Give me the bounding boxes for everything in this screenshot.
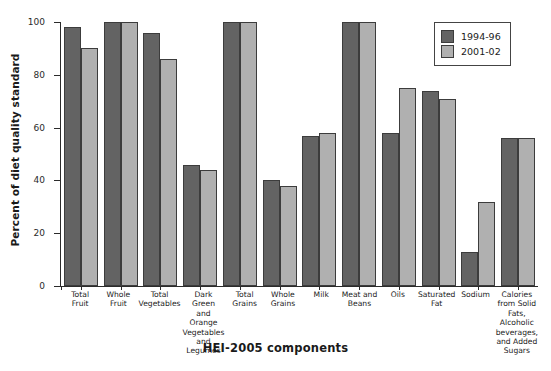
category-label-line: Vegetables [183, 328, 225, 337]
category-label-line: Calories [496, 290, 538, 299]
y-axis-tick: 100 [54, 22, 60, 23]
bar-1994-96 [422, 91, 439, 286]
bar-group [101, 22, 141, 286]
category-label-line: beverages, [496, 328, 538, 337]
category-label-line: from Solid [496, 299, 538, 308]
bar-2001-02 [518, 138, 535, 286]
bar-1994-96 [342, 22, 359, 286]
bar-pair [260, 22, 300, 286]
bar-2001-02 [160, 59, 177, 286]
category-label-line: Fruit [100, 299, 136, 308]
legend-swatch-2001-02 [441, 45, 454, 58]
bar-group [260, 22, 300, 286]
bar-group [300, 22, 340, 286]
bar-2001-02 [240, 22, 257, 286]
bar-group [141, 22, 181, 286]
bar-2001-02 [200, 170, 217, 286]
category-label-line: Fruit [62, 299, 98, 308]
y-axis-tick: 20 [54, 233, 60, 234]
y-axis-tick: 40 [54, 180, 60, 181]
category-label-line: Milk [303, 290, 339, 299]
category-label-line: Whole [265, 290, 301, 299]
category-label-line: Total [62, 290, 98, 299]
bar-group [339, 22, 379, 286]
category-label-line: Alcoholic [496, 318, 538, 327]
bar-1994-96 [183, 165, 200, 286]
x-axis-line [60, 286, 538, 287]
category-label-line: Beans [341, 299, 377, 308]
category-label-line: Grains [227, 299, 263, 308]
category-label-line: Green [183, 299, 225, 308]
category-label-line: Total [139, 290, 181, 299]
category-label-line: Fat [418, 299, 456, 308]
bar-chart: Percent of diet quality standard 0204060… [0, 0, 551, 371]
legend-label: 2001-02 [461, 46, 501, 57]
legend-swatch-1994-96 [441, 30, 454, 43]
category-label-line: Sodium [457, 290, 493, 299]
bar-group [61, 22, 101, 286]
bar-2001-02 [121, 22, 138, 286]
bar-pair [141, 22, 181, 286]
bar-1994-96 [223, 22, 240, 286]
y-axis-tick-label: 40 [34, 176, 45, 185]
bar-1994-96 [501, 138, 518, 286]
bar-pair [379, 22, 419, 286]
legend-item: 1994-96 [441, 30, 501, 43]
category-label-line: Vegetables [139, 299, 181, 308]
category-label-line: Total [227, 290, 263, 299]
y-axis-tick-label: 60 [34, 123, 45, 132]
bar-pair [180, 22, 220, 286]
y-axis-tick: 80 [54, 75, 60, 76]
y-axis-tick: 60 [54, 128, 60, 129]
bar-1994-96 [263, 180, 280, 286]
bar-2001-02 [399, 88, 416, 286]
category-label-line: Meat and [341, 290, 377, 299]
bar-2001-02 [439, 99, 456, 286]
bar-pair [101, 22, 141, 286]
chart-legend: 1994-96 2001-02 [434, 22, 511, 66]
bar-1994-96 [104, 22, 121, 286]
bar-pair [61, 22, 101, 286]
bar-1994-96 [143, 33, 160, 286]
legend-item: 2001-02 [441, 45, 501, 58]
bar-2001-02 [280, 186, 297, 286]
category-label-line: Saturated [418, 290, 456, 299]
y-axis-tick: 0 [54, 286, 60, 287]
bar-pair [339, 22, 379, 286]
bar-2001-02 [319, 133, 336, 286]
y-axis-tick-label: 20 [34, 229, 45, 238]
legend-label: 1994-96 [461, 31, 501, 42]
x-axis-title: HEI-2005 components [0, 341, 551, 355]
y-axis-tick-label: 100 [28, 18, 45, 27]
y-axis-tick-label: 0 [39, 282, 45, 291]
category-label-line: Dark [183, 290, 225, 299]
bar-1994-96 [64, 27, 81, 286]
bar-group [220, 22, 260, 286]
category-label-line: Whole [100, 290, 136, 299]
category-label-line: Grains [265, 299, 301, 308]
bar-2001-02 [359, 22, 376, 286]
bar-1994-96 [302, 136, 319, 286]
bar-1994-96 [382, 133, 399, 286]
category-label-line: and [183, 309, 225, 318]
bar-2001-02 [478, 202, 495, 286]
y-axis-title: Percent of diet quality standard [6, 0, 24, 300]
category-label-line: Fats, [496, 309, 538, 318]
bar-group [180, 22, 220, 286]
bar-1994-96 [461, 252, 478, 286]
bar-group [379, 22, 419, 286]
category-label-line: Orange [183, 318, 225, 327]
bar-2001-02 [81, 48, 98, 286]
y-axis-tick-label: 80 [34, 70, 45, 79]
category-label-line: Oils [380, 290, 416, 299]
bar-pair [300, 22, 340, 286]
bar-pair [220, 22, 260, 286]
